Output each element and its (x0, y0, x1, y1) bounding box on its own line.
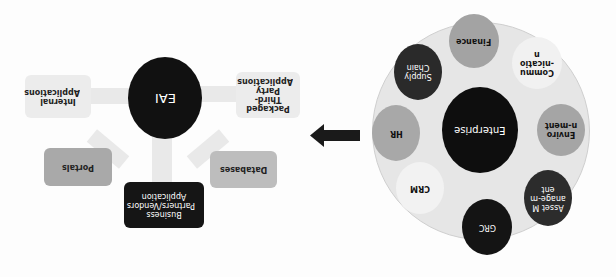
module-grc: GRC (462, 199, 512, 255)
enterprise-hub: Enterprise (442, 87, 518, 173)
source-business-label: Business Partners/Vendors Application (133, 192, 195, 219)
eai-hub-label: EAI (155, 94, 176, 103)
source-databases: Databases (210, 151, 277, 188)
module-finance: Finance (449, 14, 499, 68)
module-crm-label: CRM (410, 184, 430, 193)
module-communication-label: Commu-nication (520, 50, 554, 77)
arrow-left-icon (308, 124, 362, 148)
module-asset-management: Asset Manage-ment (524, 170, 572, 226)
source-internal-applications: Internal Applications (25, 75, 91, 118)
module-supply-chain-label: Supply Chain (400, 63, 436, 81)
module-supply-chain: Supply Chain (394, 44, 442, 100)
source-databases-label: Databases (220, 165, 267, 174)
module-grc-label: GRC (479, 223, 496, 232)
source-packaged-label: Packaged Third-Party Applications (243, 77, 293, 113)
connector-business (152, 134, 172, 184)
enterprise-hub-label: Enterprise (454, 126, 505, 135)
module-hr: HR (372, 105, 420, 161)
module-finance-label: Finance (456, 37, 491, 46)
module-environment: Environ-ment (537, 104, 585, 156)
module-environment-label: Environ-ment (544, 121, 578, 139)
source-internal-label: Internal Applications (36, 88, 80, 106)
module-crm: CRM (396, 162, 444, 214)
module-hr-label: HR (390, 129, 403, 138)
source-portals: Portals (44, 148, 112, 186)
eai-hub: EAI (128, 57, 202, 139)
module-asset-management-label: Asset Manage-ment (530, 185, 566, 212)
connector-packaged (198, 86, 238, 102)
source-portals-label: Portals (62, 163, 94, 172)
module-communication: Commu-nication (512, 37, 562, 89)
connector-internal (88, 88, 133, 104)
source-packaged-applications: Packaged Third-Party Applications (236, 72, 300, 118)
source-business-partners: Business Partners/Vendors Application (124, 182, 204, 228)
